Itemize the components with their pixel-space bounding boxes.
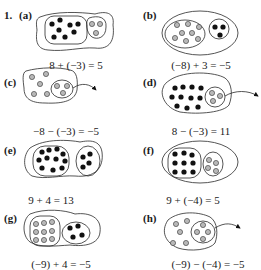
panel-b-diagram [162, 11, 238, 55]
panel-h-diagram [164, 213, 240, 250]
counter-diagrams [0, 0, 261, 270]
positive-counters [36, 17, 225, 239]
